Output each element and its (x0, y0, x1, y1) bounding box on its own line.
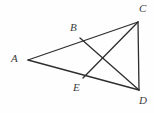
geometry-figure: A B C D E (0, 0, 154, 113)
vertex-label-C: C (139, 3, 146, 14)
vertex-label-D: D (139, 95, 147, 106)
segment-EC (83, 22, 138, 78)
geometry-canvas (0, 0, 154, 113)
vertex-label-E: E (73, 82, 80, 93)
segment-CD (138, 22, 139, 90)
vertex-label-B: B (70, 22, 77, 33)
vertex-label-A: A (11, 53, 18, 64)
